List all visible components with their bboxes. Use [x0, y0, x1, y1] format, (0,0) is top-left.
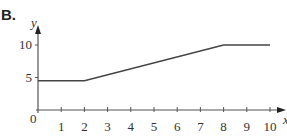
x-tick-label: 9 — [244, 119, 251, 134]
origin-label: 0 — [30, 111, 37, 126]
x-tick-label: 6 — [174, 119, 181, 134]
line-chart: yx012345678910510 — [0, 0, 287, 136]
x-tick-label: 4 — [128, 119, 135, 134]
x-tick-label: 5 — [151, 119, 158, 134]
data-line — [38, 45, 270, 81]
y-tick-label: 5 — [26, 70, 33, 85]
x-tick-label: 10 — [264, 119, 277, 134]
x-tick-label: 7 — [197, 119, 204, 134]
y-tick-label: 10 — [19, 37, 32, 52]
x-axis-label: x — [282, 112, 287, 127]
x-tick-label: 2 — [81, 119, 88, 134]
x-tick-label: 8 — [220, 119, 227, 134]
x-tick-label: 3 — [104, 119, 111, 134]
y-axis-label: y — [29, 15, 37, 30]
x-tick-label: 1 — [58, 119, 65, 134]
